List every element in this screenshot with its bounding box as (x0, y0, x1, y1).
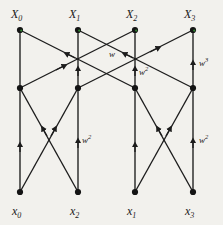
weight-label-w2-lower-mid: w2 (82, 134, 91, 145)
fft-butterfly-diagram: X0 X1 X2 X3 x0 x2 x1 x3 w w2 w3 w2 w2 (0, 0, 223, 225)
node-X0-accent (20, 30, 22, 32)
node-x3 (190, 189, 196, 195)
nodes-output-row (17, 27, 196, 33)
node-X1 (75, 27, 81, 33)
nodes-middle-row (17, 85, 196, 91)
node-x0 (17, 189, 23, 195)
weight-label-w3: w3 (199, 57, 208, 68)
output-label-X3: X3 (184, 8, 195, 23)
butterfly-signal-flow-graph (0, 0, 223, 225)
input-label-x1: x1 (127, 205, 136, 220)
node-X2 (132, 27, 138, 33)
output-label-X0: X0 (11, 8, 22, 23)
output-label-X2: X2 (126, 8, 137, 23)
edge-m0-to-x2-arrow (56, 65, 66, 70)
input-label-x3: x3 (185, 205, 194, 220)
node-X3 (190, 27, 196, 33)
edge-x1-to-m3-arrow (166, 127, 171, 136)
edge-x3-to-m2-arrow (157, 127, 162, 136)
input-label-x0: x0 (12, 205, 21, 220)
node-M1 (75, 85, 81, 91)
edge-m1-to-x3-arrow (150, 47, 160, 52)
node-M0 (17, 85, 23, 91)
node-X3-accent (193, 30, 195, 32)
node-M3 (190, 85, 196, 91)
edges-stage-2 (20, 30, 193, 88)
edge-m3-to-x1-arrow (123, 53, 133, 58)
edge-x0-to-m1-arrow (51, 127, 56, 136)
node-x2 (75, 189, 81, 195)
edges-stage-1 (20, 88, 193, 192)
node-x1 (132, 189, 138, 195)
node-M2 (132, 85, 138, 91)
edge-x2-to-m0-arrow (42, 127, 47, 136)
edge-m2-to-x0-arrow (65, 53, 75, 58)
node-X2-accent (135, 30, 137, 32)
node-X0 (17, 27, 23, 33)
node-X1-accent (78, 30, 80, 32)
weight-label-w2-upper: w2 (139, 66, 148, 77)
weight-label-w2-lower-right: w2 (199, 134, 208, 145)
output-label-X1: X1 (69, 8, 80, 23)
nodes-input-row (17, 189, 196, 195)
input-label-x2: x2 (70, 205, 79, 220)
weight-label-w: w (109, 48, 115, 59)
